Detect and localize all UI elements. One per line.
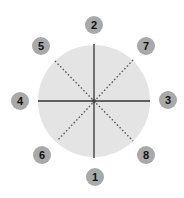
marker-3: 3 xyxy=(159,91,177,109)
marker-label: 7 xyxy=(143,40,149,52)
marker-label: 6 xyxy=(39,149,45,161)
marker-7: 7 xyxy=(137,37,155,55)
marker-8: 8 xyxy=(137,146,155,164)
marker-label: 3 xyxy=(165,94,171,106)
marker-1: 1 xyxy=(86,168,104,186)
marker-4: 4 xyxy=(11,92,29,110)
marker-label: 4 xyxy=(17,95,23,107)
marker-2: 2 xyxy=(85,16,103,34)
marker-6: 6 xyxy=(33,146,51,164)
marker-label: 5 xyxy=(38,40,44,52)
marker-5: 5 xyxy=(32,37,50,55)
marker-label: 8 xyxy=(143,149,149,161)
marker-label: 2 xyxy=(91,19,97,31)
center-point xyxy=(92,99,96,103)
marker-label: 1 xyxy=(92,171,98,183)
segmented-circle-diagram: 1 2 3 4 5 6 7 8 xyxy=(0,0,184,198)
